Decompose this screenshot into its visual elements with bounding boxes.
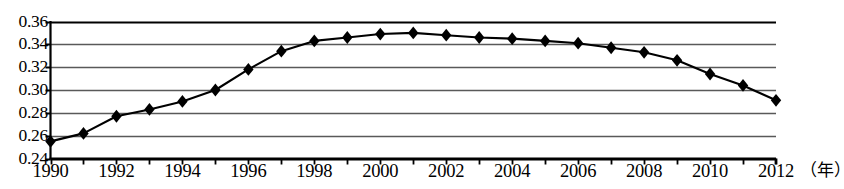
- data-point-marker: [507, 32, 517, 45]
- data-point-marker: [705, 68, 715, 81]
- x-axis-tick-label: 2008: [626, 160, 662, 182]
- data-point-marker: [474, 31, 484, 44]
- x-axis-tick-label: 1994: [164, 160, 200, 182]
- x-axis-tick-label: 1998: [296, 160, 332, 182]
- data-point-marker: [177, 95, 187, 108]
- data-series-line: [51, 33, 777, 141]
- x-axis-tick-label: 1992: [98, 160, 134, 182]
- y-axis-tick-label: 0.36: [2, 13, 48, 31]
- y-axis-tick-label: 0.28: [2, 104, 48, 122]
- data-point-marker: [606, 41, 616, 54]
- x-axis-tick-label: 2012: [758, 160, 794, 182]
- x-axis-tick-label: 2010: [692, 160, 728, 182]
- data-point-marker: [375, 28, 385, 41]
- x-axis-tick-label: 2002: [428, 160, 464, 182]
- x-axis-tick-label: 1996: [230, 160, 266, 182]
- x-axis-unit-label: （年）: [800, 160, 844, 182]
- x-axis-tick-label: 2006: [560, 160, 596, 182]
- data-point-marker: [342, 31, 352, 44]
- x-axis-tick-label: 2000: [362, 160, 398, 182]
- data-point-marker: [408, 27, 418, 40]
- data-point-marker: [276, 45, 286, 58]
- x-axis-tick-label: 2004: [494, 160, 530, 182]
- x-axis-tick-label: 1990: [32, 160, 68, 182]
- data-point-marker: [672, 54, 682, 67]
- data-point-marker: [243, 63, 253, 76]
- y-axis-tick-label: 0.34: [2, 35, 48, 53]
- data-point-marker: [78, 127, 88, 140]
- data-point-marker: [309, 35, 319, 48]
- data-point-marker: [441, 29, 451, 42]
- data-point-marker: [639, 46, 649, 59]
- data-point-marker: [771, 94, 781, 107]
- y-axis-tick-label: 0.30: [2, 81, 48, 99]
- data-point-marker: [111, 110, 121, 123]
- x-axis-tick-labels: 1990199219941996199820002002200420062008…: [0, 160, 834, 189]
- data-point-marker: [540, 35, 550, 48]
- y-axis-tick-label: 0.26: [2, 127, 48, 145]
- data-point-marker: [573, 37, 583, 50]
- y-axis-tick-label: 0.32: [2, 58, 48, 76]
- data-point-marker: [210, 84, 220, 97]
- gridlines: [46, 23, 777, 160]
